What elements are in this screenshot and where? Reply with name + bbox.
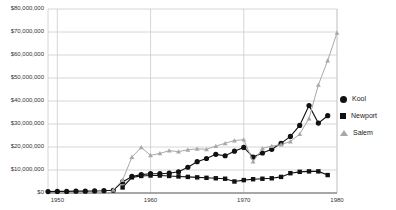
legend-item-newport[interactable]: Newport	[340, 112, 377, 120]
circle-marker-icon	[340, 96, 347, 103]
square-marker-icon	[340, 113, 346, 119]
y-axis-tick-label: $0	[0, 189, 44, 195]
legend-label-salem: Salem	[353, 129, 373, 137]
legend-label-newport: Newport	[351, 112, 377, 120]
legend-item-kool[interactable]: Kool	[340, 95, 377, 103]
y-axis-tick-label: $80,000,000	[0, 5, 44, 11]
x-axis-tick-label: 1980	[322, 197, 352, 203]
y-axis-tick-label: $10,000,000	[0, 166, 44, 172]
legend-label-kool: Kool	[352, 95, 366, 103]
x-axis-tick-label: 1950	[42, 197, 72, 203]
y-axis-tick-label: $20,000,000	[0, 143, 44, 149]
y-axis-tick-label: $50,000,000	[0, 74, 44, 80]
legend-item-salem[interactable]: Salem	[340, 129, 377, 137]
y-axis-tick-label: $40,000,000	[0, 97, 44, 103]
line-chart-plot	[0, 0, 396, 210]
triangle-marker-icon	[340, 130, 348, 136]
y-axis-tick-label: $30,000,000	[0, 120, 44, 126]
x-axis-tick-label: 1960	[136, 197, 166, 203]
chart-legend: Kool Newport Salem	[340, 95, 377, 137]
y-axis-tick-label: $70,000,000	[0, 28, 44, 34]
chart-container: Kool Newport Salem $0$10,000,000$20,000,…	[0, 0, 396, 210]
y-axis-tick-label: $60,000,000	[0, 51, 44, 57]
x-axis-tick-label: 1970	[229, 197, 259, 203]
